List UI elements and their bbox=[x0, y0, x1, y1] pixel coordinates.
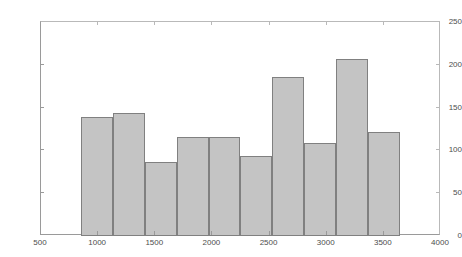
histogram-bar bbox=[240, 156, 272, 236]
y-axis-tick-mark-right bbox=[436, 192, 440, 193]
histogram-bar bbox=[304, 143, 336, 236]
x-axis-tick-mark bbox=[326, 231, 327, 235]
histogram-bar bbox=[336, 59, 368, 236]
y-axis-tick-mark-right bbox=[436, 107, 440, 108]
y-axis-labels bbox=[0, 0, 36, 257]
y-axis-tick-mark-right bbox=[436, 64, 440, 65]
y-axis-tick-mark bbox=[40, 64, 44, 65]
y-axis-tick-label: 150 bbox=[426, 102, 462, 111]
y-axis-tick-label: 100 bbox=[426, 145, 462, 154]
x-axis-tick-label: 1000 bbox=[88, 238, 106, 247]
x-axis-tick-mark-top bbox=[383, 21, 384, 25]
x-axis-tick-label: 1500 bbox=[145, 238, 163, 247]
y-axis-tick-mark bbox=[40, 192, 44, 193]
y-axis-tick-label: 250 bbox=[426, 17, 462, 26]
histogram-bar bbox=[145, 162, 177, 236]
histogram-bar bbox=[113, 113, 145, 236]
y-axis-tick-label: 50 bbox=[426, 188, 462, 197]
x-axis-tick-label: 3500 bbox=[374, 238, 392, 247]
histogram-bar bbox=[81, 117, 113, 236]
x-axis-tick-mark-top bbox=[97, 21, 98, 25]
x-axis-tick-mark bbox=[97, 231, 98, 235]
x-axis-tick-mark-top bbox=[211, 21, 212, 25]
histogram-bar bbox=[368, 132, 400, 236]
x-axis-tick-mark bbox=[269, 231, 270, 235]
plot-area bbox=[40, 21, 440, 235]
x-axis-tick-mark bbox=[154, 231, 155, 235]
x-axis-tick-label: 2000 bbox=[203, 238, 221, 247]
histogram-bar bbox=[177, 137, 209, 236]
bar-series bbox=[41, 22, 441, 236]
histogram-bar bbox=[272, 77, 304, 236]
x-axis-tick-mark-top bbox=[269, 21, 270, 25]
x-axis-tick-mark-top bbox=[326, 21, 327, 25]
x-axis-tick-mark-top bbox=[154, 21, 155, 25]
x-axis-tick-label: 500 bbox=[33, 238, 46, 247]
histogram-figure: 0501001502002505001000150020002500300035… bbox=[0, 0, 462, 257]
y-axis-tick-mark bbox=[40, 107, 44, 108]
y-axis-tick-mark bbox=[40, 149, 44, 150]
x-axis-tick-label: 4000 bbox=[431, 238, 449, 247]
x-axis-tick-mark bbox=[383, 231, 384, 235]
x-axis-tick-mark bbox=[211, 231, 212, 235]
x-axis-tick-label: 3000 bbox=[317, 238, 335, 247]
y-axis-tick-label: 200 bbox=[426, 59, 462, 68]
histogram-bar bbox=[209, 137, 241, 236]
y-axis-tick-mark-right bbox=[436, 149, 440, 150]
x-axis-tick-label: 2500 bbox=[260, 238, 278, 247]
